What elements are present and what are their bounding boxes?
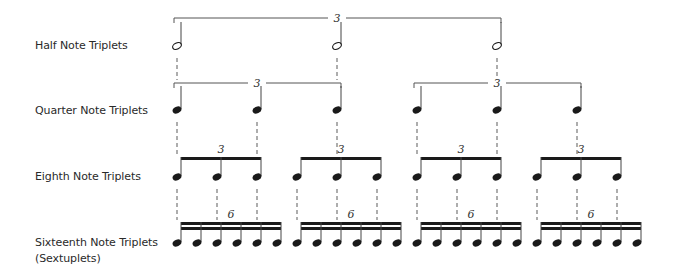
- tuplet-number: 3: [338, 143, 345, 156]
- beam: [181, 227, 281, 230]
- tuplet-number: 3: [218, 143, 225, 156]
- tuplet-number: 6: [228, 208, 235, 221]
- tuplet-number: 3: [254, 77, 261, 90]
- tuplet-number: 3: [494, 77, 501, 90]
- tuplet-number: 3: [578, 143, 585, 156]
- half-note-head: [332, 41, 343, 50]
- beam: [181, 222, 281, 225]
- half-note-head: [172, 41, 183, 50]
- beam: [541, 227, 641, 230]
- notation-canvas: 33333336666: [0, 0, 674, 273]
- beam: [301, 227, 401, 230]
- triplet-rhythm-diagram: Half Note Triplets Quarter Note Triplets…: [0, 0, 674, 273]
- tuplet-number: 6: [348, 208, 355, 221]
- tuplet-number: 6: [588, 208, 595, 221]
- beam: [421, 222, 521, 225]
- tuplet-number: 3: [458, 143, 465, 156]
- tuplet-number: 3: [334, 12, 341, 25]
- tuplet-number: 6: [468, 208, 475, 221]
- half-note-head: [492, 41, 503, 50]
- beam: [421, 227, 521, 230]
- beam: [301, 222, 401, 225]
- beam: [541, 222, 641, 225]
